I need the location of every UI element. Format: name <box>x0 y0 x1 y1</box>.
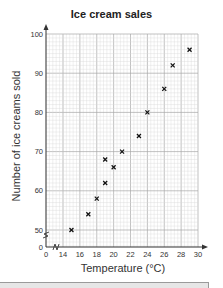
svg-text:30: 30 <box>194 250 202 259</box>
svg-text:80: 80 <box>35 108 43 117</box>
svg-text:100: 100 <box>30 30 43 39</box>
svg-text:20: 20 <box>109 250 117 259</box>
svg-text:26: 26 <box>160 250 168 259</box>
svg-text:90: 90 <box>35 69 43 78</box>
svg-text:24: 24 <box>143 250 151 259</box>
grid <box>46 34 198 247</box>
svg-text:14: 14 <box>59 250 67 259</box>
svg-text:50: 50 <box>35 226 43 235</box>
svg-text:0: 0 <box>44 250 48 259</box>
svg-text:0: 0 <box>39 243 43 252</box>
svg-text:18: 18 <box>93 250 101 259</box>
axes <box>43 24 208 250</box>
bottom-panel <box>0 282 209 288</box>
svg-text:22: 22 <box>126 250 134 259</box>
svg-text:60: 60 <box>35 186 43 195</box>
svg-text:70: 70 <box>35 147 43 156</box>
svg-text:16: 16 <box>76 250 84 259</box>
svg-text:28: 28 <box>177 250 185 259</box>
